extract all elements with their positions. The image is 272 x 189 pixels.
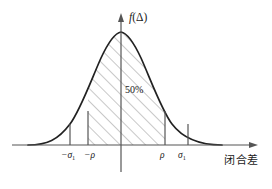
y-axis-label-argument: (Δ) [132,11,147,23]
x-tick-label-neg-sigma1: −σ1 [61,151,75,161]
x-tick-label-sigma1: σ1 [178,151,186,161]
x-axis-label: 闭合差 [224,155,259,166]
x-tick-label-neg-rho-base: −ρ [84,150,95,160]
x-tick-label-rho: ρ [160,151,165,161]
x-tick-label-neg-sigma1-subscript: 1 [72,154,75,161]
y-axis-arrowhead [118,13,124,22]
x-tick-label-neg-rho: −ρ [84,151,95,161]
y-axis-label: f(Δ) [129,12,147,24]
x-axis-arrowhead [249,142,258,148]
x-tick-label-sigma1-subscript: 1 [183,154,186,161]
x-tick-label-rho-base: ρ [160,150,165,160]
probability-density-figure: f(Δ) −σ1 −ρ ρ σ1 闭合差 50% [0,0,272,189]
shaded-area-percent-label: 50% [125,85,143,95]
x-tick-label-neg-sigma1-base: −σ [61,150,72,160]
